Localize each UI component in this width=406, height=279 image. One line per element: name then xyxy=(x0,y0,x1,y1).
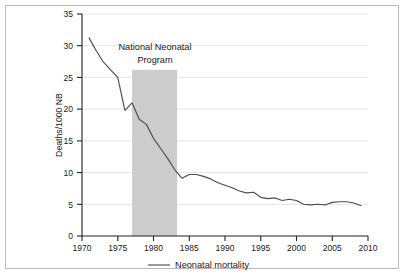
x-tick-label-1975: 1975 xyxy=(108,243,127,253)
x-tick-label-1970: 1970 xyxy=(73,243,92,253)
y-tick-label-15: 15 xyxy=(64,136,74,146)
y-tick-label-10: 10 xyxy=(64,168,74,178)
x-tick-label-1985: 1985 xyxy=(180,243,199,253)
x-tick-label-1995: 1995 xyxy=(251,243,270,253)
y-axis-title: Deaths/1000 NB xyxy=(54,93,64,157)
x-tick-label-2000: 2000 xyxy=(287,243,306,253)
legend: Neonatal mortality xyxy=(148,260,249,270)
y-tick-label-20: 20 xyxy=(64,104,74,114)
x-tick-label-2010: 2010 xyxy=(359,243,378,253)
x-axis-tick-labels: 1970 1975 1980 1985 1990 1995 2000 2005 … xyxy=(73,243,378,253)
x-tick-label-2005: 2005 xyxy=(323,243,342,253)
x-tick-label-1980: 1980 xyxy=(144,243,163,253)
x-axis-ticks xyxy=(82,236,368,241)
y-axis-ticks xyxy=(77,14,82,236)
intervention-band xyxy=(132,70,177,236)
annotation-line-1: National Neonatal xyxy=(118,42,191,52)
chart-canvas: National Neonatal Program 35 30 25 20 15… xyxy=(0,0,406,279)
x-tick-label-1990: 1990 xyxy=(216,243,235,253)
y-tick-label-5: 5 xyxy=(68,200,73,210)
legend-label-neonatal-mortality: Neonatal mortality xyxy=(175,260,249,270)
y-tick-label-35: 35 xyxy=(64,9,74,19)
annotation-line-2: Program xyxy=(137,55,173,65)
y-tick-label-0: 0 xyxy=(68,231,73,241)
y-tick-label-25: 25 xyxy=(64,73,74,83)
figure-container: National Neonatal Program 35 30 25 20 15… xyxy=(0,0,406,279)
y-tick-label-30: 30 xyxy=(64,41,74,51)
series-line-neonatal-mortality xyxy=(89,38,361,205)
y-axis-tick-labels: 35 30 25 20 15 10 5 0 xyxy=(64,9,74,241)
